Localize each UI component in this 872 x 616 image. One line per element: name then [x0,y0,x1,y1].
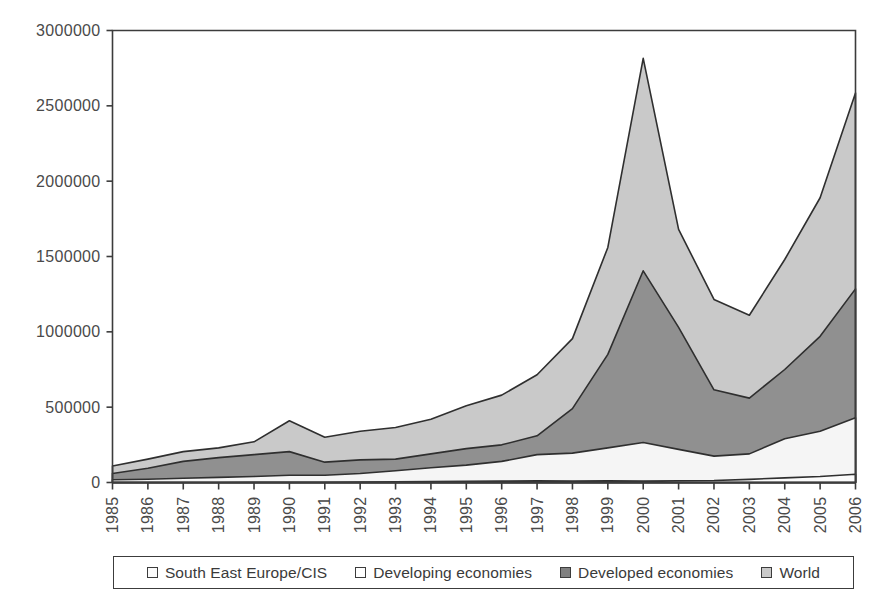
legend-swatch-icon [147,567,158,578]
x-tick-label: 1991 [316,497,333,534]
legend-swatch-icon [560,567,571,578]
x-tick-label: 2006 [847,497,864,534]
x-tick-label: 1994 [422,497,439,534]
x-tick-label: 2005 [812,497,829,534]
x-tick-label: 2002 [705,497,722,534]
x-tick-label: 1987 [175,497,192,534]
area-chart: 0500000100000015000002000000250000030000… [0,0,872,616]
chart-legend: South East Europe/CISDeveloping economie… [113,556,854,589]
chart-container: 0500000100000015000002000000250000030000… [0,0,872,616]
x-tick-label: 2004 [776,497,793,534]
legend-entry[interactable]: World [747,564,834,582]
y-tick-label: 2000000 [36,173,100,190]
legend-entry[interactable]: Developing economies [341,564,546,582]
x-tick-label: 1990 [281,497,298,534]
x-tick-label: 1995 [458,497,475,534]
y-tick-label: 1000000 [36,323,100,340]
y-tick-label: 0 [91,474,100,491]
legend-swatch-icon [761,567,772,578]
x-tick-label: 1999 [599,497,616,534]
legend-label: Developing economies [373,564,532,582]
legend-swatch-icon [355,567,366,578]
y-tick-label: 500000 [45,399,100,416]
x-tick-label: 2003 [741,497,758,534]
x-tick-label: 2000 [635,497,652,534]
legend-label: Developed economies [578,564,733,582]
x-tick-label: 1998 [564,497,581,534]
y-tick-label: 2500000 [36,97,100,114]
y-tick-label: 1500000 [36,248,100,265]
x-tick-label: 2001 [670,497,687,534]
legend-label: South East Europe/CIS [165,564,327,582]
x-tick-label: 1989 [246,497,263,534]
x-tick-label: 1992 [352,497,369,534]
legend-entry[interactable]: Developed economies [546,564,747,582]
legend-entry[interactable]: South East Europe/CIS [133,564,341,582]
x-tick-label: 1996 [493,497,510,534]
y-tick-label: 3000000 [36,22,100,39]
legend-label: World [779,564,820,582]
x-tick-label: 1993 [387,497,404,534]
x-tick-label: 1985 [104,497,121,534]
x-tick-label: 1988 [210,497,227,534]
x-tick-label: 1997 [529,497,546,534]
x-tick-label: 1986 [139,497,156,534]
